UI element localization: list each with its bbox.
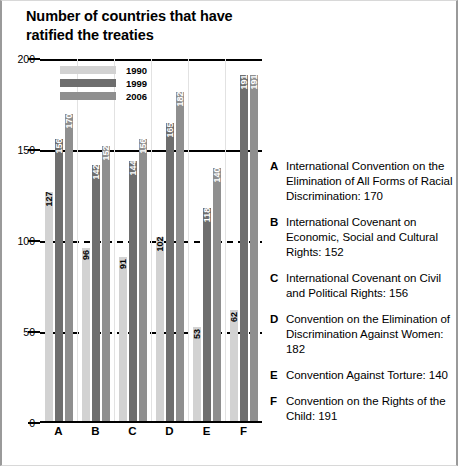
bar-value-label-C-1999: 144 [129,160,137,175]
y-tick-mark-50 [28,331,40,333]
legend-item-2006[interactable]: 2006 [60,91,200,101]
y-tick-mark-0 [28,422,40,424]
bar-value-label-F-2006: 191 [250,75,258,90]
x-axis-label-A: A [54,425,62,437]
bar-D-2006[interactable]: 182 [176,92,184,423]
bar-value-label-C-1990: 91 [119,259,127,269]
chart-legend: 199019992006 [60,65,200,104]
bar-value-label-D-1990: 102 [156,237,164,252]
key-letter-E: E [270,368,286,383]
chart-title-line-2: ratified the treaties [26,26,326,45]
key-item-E: EConvention Against Torture: 140 [270,368,454,383]
bar-D-1990[interactable]: 102 [156,237,164,423]
bar-value-label-F-1999: 191 [240,75,248,90]
bar-C-2006[interactable]: 156 [139,139,147,423]
key-item-C: CInternational Covenant on Civil and Pol… [270,271,454,301]
key-letter-C: C [270,271,286,301]
x-axis-labels: ABCDEF [40,425,262,443]
bar-E-1999[interactable]: 118 [203,208,211,423]
bar-value-label-D-1999: 165 [166,122,174,137]
bar-value-label-B-1999: 142 [92,164,100,179]
bar-F-1990[interactable]: 62 [230,310,238,423]
y-tick-mark-100 [28,240,40,242]
bar-B-2006[interactable]: 152 [102,146,110,423]
key-item-D: DConvention on the Elimination of Discri… [270,312,454,357]
bar-value-label-A-2006: 170 [65,113,73,128]
key-text-A: International Convention on the Eliminat… [286,159,454,204]
key-item-A: AInternational Convention on the Elimina… [270,159,454,204]
legend-label-2006: 2006 [126,92,147,101]
bar-value-label-B-1990: 96 [82,250,90,260]
bar-value-label-E-2006: 140 [213,168,221,183]
key-item-B: BInternational Covenant on Economic, Soc… [270,215,454,260]
chart-title: Number of countries that haveratified th… [26,7,326,44]
bar-group-B: 96142152 [82,59,110,423]
bar-value-label-A-1999: 156 [55,139,63,154]
x-axis-label-F: F [240,425,247,437]
bar-D-1999[interactable]: 165 [166,123,174,423]
bar-group-E: 53118140 [193,59,221,423]
x-axis-label-B: B [91,425,99,437]
x-axis-label-D: D [165,425,173,437]
treaty-key-panel: AInternational Convention on the Elimina… [270,159,454,435]
legend-label-1990: 1990 [126,66,147,75]
key-letter-F: F [270,394,286,424]
bar-E-1990[interactable]: 53 [193,327,201,423]
bar-B-1990[interactable]: 96 [82,248,90,423]
legend-swatch-1999 [60,79,116,87]
bar-value-label-B-2006: 152 [102,146,110,161]
bar-group-C: 91144156 [119,59,147,423]
y-tick-mark-200 [28,58,40,60]
key-letter-D: D [270,312,286,357]
key-text-C: International Covenant on Civil and Poli… [286,271,454,301]
x-axis-baseline [40,421,262,423]
bar-value-label-C-2006: 156 [139,139,147,154]
bar-series-container: 1271561709614215291144156102165182531181… [40,59,262,423]
legend-swatch-2006 [60,92,116,100]
bar-A-1990[interactable]: 127 [45,192,53,423]
bar-value-label-E-1990: 53 [193,329,201,339]
bar-C-1990[interactable]: 91 [119,257,127,423]
chart-figure: Number of countries that haveratified th… [0,0,458,466]
bar-F-2006[interactable]: 191 [250,75,258,423]
bar-group-F: 62191191 [230,59,258,423]
legend-swatch-1990 [60,66,116,74]
bar-value-label-A-1990: 127 [45,191,53,206]
key-item-F: FConvention on the Rights of the Child: … [270,394,454,424]
bar-A-1999[interactable]: 156 [55,139,63,423]
bar-group-D: 102165182 [156,59,184,423]
y-tick-mark-150 [28,149,40,151]
bar-C-1999[interactable]: 144 [129,161,137,423]
key-text-E: Convention Against Torture: 140 [286,368,448,383]
x-axis-label-C: C [128,425,136,437]
x-axis-label-E: E [203,425,211,437]
bar-B-1999[interactable]: 142 [92,165,100,423]
legend-label-1999: 1999 [126,79,147,88]
key-letter-A: A [270,159,286,204]
bar-A-2006[interactable]: 170 [65,114,73,423]
bar-F-1999[interactable]: 191 [240,75,248,423]
bar-value-label-F-1990: 62 [230,312,238,322]
key-letter-B: B [270,215,286,260]
key-text-B: International Covenant on Economic, Soci… [286,215,454,260]
legend-item-1990[interactable]: 1990 [60,65,200,75]
plot-area: 050100150200 127156170961421529114415610… [40,59,262,423]
bar-value-label-E-1999: 118 [203,208,211,223]
key-text-F: Convention on the Rights of the Child: 1… [286,394,454,424]
key-text-D: Convention on the Elimination of Discrim… [286,312,454,357]
legend-item-1999[interactable]: 1999 [60,78,200,88]
chart-title-line-1: Number of countries that have [26,7,326,26]
bar-E-2006[interactable]: 140 [213,168,221,423]
bar-group-A: 127156170 [45,59,73,423]
